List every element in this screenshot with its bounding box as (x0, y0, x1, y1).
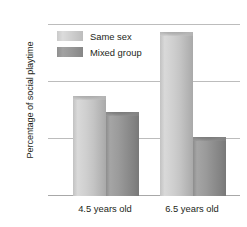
bar-6-5-years-same-sex (160, 32, 193, 196)
gridline-75 (48, 24, 240, 25)
legend: Same sex Mixed group (57, 29, 142, 61)
y-axis-title: Percentage of social playtime (25, 15, 35, 185)
bar-chart: Percentage of social playtime 75 50 25 0 (0, 0, 247, 227)
x-tick-label-6-5-years: 6.5 years old (135, 203, 247, 214)
bar-6-5-years-mixed-group (193, 137, 226, 196)
bar-4-5-years-same-sex (73, 96, 106, 196)
bar-body (106, 116, 139, 196)
bar-body (160, 36, 193, 196)
legend-label-same-sex: Same sex (90, 31, 132, 42)
legend-label-mixed-group: Mixed group (90, 47, 142, 58)
legend-swatch-icon-same-sex (57, 31, 83, 41)
bar-body (73, 100, 106, 196)
bar-body (193, 141, 226, 196)
legend-item-mixed-group: Mixed group (57, 45, 142, 59)
legend-item-same-sex: Same sex (57, 29, 142, 43)
legend-swatch-icon-mixed-group (57, 47, 83, 57)
bar-4-5-years-mixed-group (106, 112, 139, 196)
gridline-50 (48, 81, 240, 82)
